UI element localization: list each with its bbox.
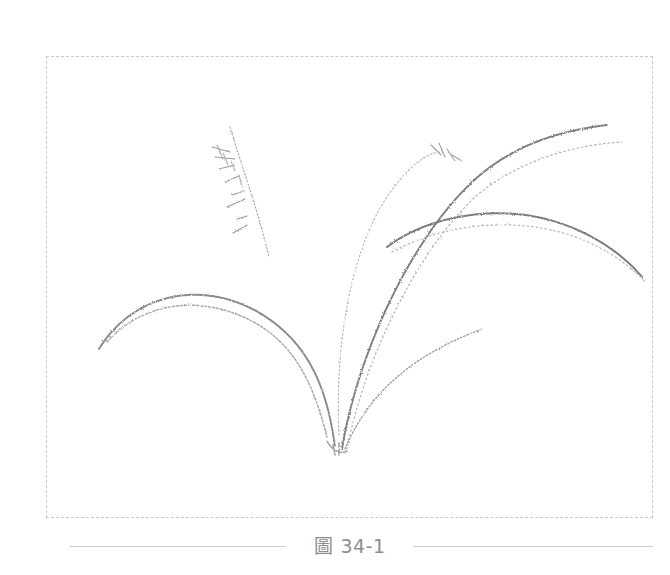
figure-frame	[46, 56, 653, 518]
caption-divider-left	[70, 546, 286, 547]
grass-sketch-illustration	[47, 57, 654, 519]
right-arch-blade	[387, 213, 642, 277]
seed-stem	[230, 127, 269, 257]
caption-divider-right	[413, 546, 653, 547]
right-tall-blade	[342, 125, 607, 449]
top-tuft	[431, 143, 462, 161]
figure-caption: 圖 34-1	[300, 533, 400, 559]
left-blade-inner	[107, 305, 327, 437]
left-blade-outer	[99, 295, 335, 447]
right-tall-blade-edge	[347, 142, 622, 449]
seed-head	[212, 145, 247, 233]
base	[327, 441, 347, 455]
lower-short-blade	[345, 329, 482, 449]
center-stalk	[338, 152, 442, 435]
figure-caption-row: 圖 34-1	[0, 533, 670, 559]
